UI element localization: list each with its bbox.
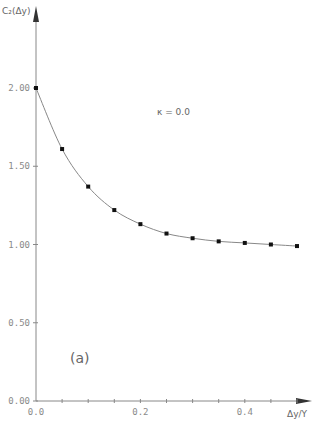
x-axis-arrow-icon [296,398,312,404]
x-axis-title: Δy/Y [287,409,308,419]
y-ticks: 0.000.501.001.502.00 [8,83,38,406]
data-point-marker [34,86,38,90]
y-tick-label: 0.00 [8,396,30,406]
axes [33,6,312,404]
x-ticks: 0.00.20.4 [28,399,297,417]
y-tick-label: 0.50 [8,318,30,328]
chart: 0.000.501.001.502.00 0.00.20.4 C₂(Δy) Δy… [0,0,315,423]
y-tick-label: 2.00 [8,83,30,93]
data-point-marker [165,232,169,236]
y-axis-title: C₂(Δy) [2,6,30,16]
data-point-marker [112,208,116,212]
y-axis-arrow-icon [33,6,39,22]
x-tick-label: 0.0 [28,407,44,417]
kappa-annotation: κ = 0.0 [157,107,190,117]
y-tick-label: 1.00 [8,240,30,250]
data-point-marker [295,244,299,248]
data-point-marker [138,222,142,226]
data-point-marker [60,147,64,151]
data-point-marker [86,185,90,189]
x-tick-label: 0.2 [132,407,148,417]
x-tick-label: 0.4 [237,407,253,417]
data-point-marker [191,236,195,240]
panel-label: (a) [70,350,90,366]
data-point-marker [217,239,221,243]
data-point-marker [243,241,247,245]
y-tick-label: 1.50 [8,161,30,171]
data-point-marker [269,243,273,247]
